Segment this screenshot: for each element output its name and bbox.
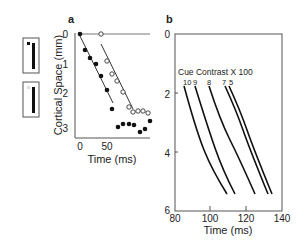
a-ylabel: Cortical Space (mm)	[52, 35, 64, 135]
b-ytick-0: 0	[164, 29, 170, 40]
b-curve-label-9: 9	[193, 78, 197, 87]
b-ytick-2: 2	[164, 89, 170, 100]
panel-a: a 0 1 2 3 0 50 Time (ms) Cortical Space …	[52, 13, 152, 165]
figure: a 0 1 2 3 0 50 Time (ms) Cortical Space …	[0, 0, 298, 243]
b-xtick-140: 140	[274, 213, 291, 224]
curve-10	[184, 86, 227, 194]
b-xlabel: Time (ms)	[203, 224, 252, 236]
a-series-open	[99, 32, 150, 115]
panel-a-label: a	[68, 13, 75, 25]
panel-b: b 0 2 4 6 80 100 120 140 Time (ms) Cue C…	[164, 13, 290, 236]
b-xtick-120: 120	[238, 213, 255, 224]
a-xlabel: Time (ms)	[87, 153, 136, 165]
legend-icon-bar-only	[23, 82, 39, 117]
a-series-filled	[78, 32, 153, 135]
b-curve-label-8: 8	[207, 78, 211, 87]
a-xtick-0: 0	[77, 141, 83, 152]
b-curves	[184, 86, 272, 194]
b-curve-label-5: 5	[229, 78, 233, 87]
b-curve-label-10: 10	[183, 78, 191, 87]
b-xtick-100: 100	[202, 213, 219, 224]
a-xtick-50: 50	[101, 141, 113, 152]
b-annotation: Cue Contrast X 100	[178, 67, 253, 77]
b-xtick-80: 80	[169, 213, 181, 224]
curve-7	[225, 86, 268, 194]
b-curve-label-7: 7	[222, 78, 226, 87]
curve-5	[229, 86, 272, 194]
legend-icon-cue-bar	[23, 38, 39, 73]
panel-b-label: b	[166, 13, 173, 25]
b-ytick-4: 4	[164, 148, 170, 159]
